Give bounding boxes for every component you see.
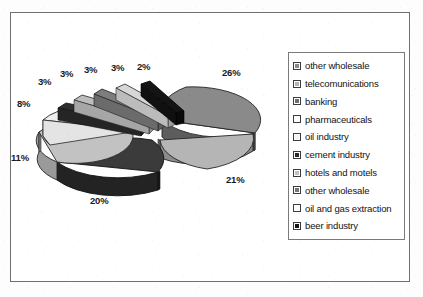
data-label-11: 11% — [11, 152, 29, 163]
legend-item-4[interactable]: oil industry — [293, 128, 401, 146]
legend-item-0[interactable]: other wholesale — [293, 57, 401, 75]
legend-label-4: oil industry — [305, 132, 349, 142]
legend-item-6[interactable]: hotels and motels — [293, 164, 401, 182]
legend-label-7: other wholesale — [305, 186, 369, 196]
chart-screenshot: 26% 21% 20% 11% 8% 3% 3% 3% 3% 2% other … — [0, 0, 423, 297]
legend-label-5: cement industry — [305, 150, 370, 160]
chart-legend: other wholesale telecomunications bankin… — [288, 52, 405, 240]
data-label-3d: 3% — [111, 62, 124, 73]
legend-swatch-icon-0 — [293, 62, 301, 70]
legend-swatch-icon-1 — [293, 80, 301, 88]
legend-swatch-icon-3 — [293, 115, 301, 123]
pie-chart-graphic — [10, 12, 293, 282]
legend-item-1[interactable]: telecomunications — [293, 75, 401, 93]
pie-slice-telecomunications — [158, 134, 254, 169]
data-label-8: 8% — [17, 98, 30, 109]
legend-label-3: pharmaceuticals — [305, 115, 372, 125]
legend-item-9[interactable]: beer industry — [293, 217, 401, 235]
legend-label-2: banking — [305, 97, 337, 107]
data-label-20: 20% — [90, 195, 108, 206]
legend-swatch-icon-5 — [293, 151, 301, 159]
data-label-26: 26% — [222, 67, 240, 78]
legend-swatch-icon-6 — [293, 169, 301, 177]
legend-swatch-icon-2 — [293, 97, 301, 105]
legend-label-1: telecomunications — [305, 79, 379, 89]
legend-swatch-icon-8 — [293, 204, 301, 212]
legend-label-9: beer industry — [305, 221, 358, 231]
data-label-21: 21% — [226, 174, 244, 185]
data-label-2: 2% — [137, 61, 150, 72]
pie-plot-area: 26% 21% 20% 11% 8% 3% 3% 3% 3% 2% — [10, 12, 293, 282]
legend-item-8[interactable]: oil and gas extraction — [293, 199, 401, 217]
legend-label-0: other wholesale — [305, 61, 369, 71]
legend-swatch-icon-7 — [293, 186, 301, 194]
legend-item-2[interactable]: banking — [293, 93, 401, 111]
legend-swatch-icon-9 — [293, 222, 301, 230]
legend-item-3[interactable]: pharmaceuticals — [293, 110, 401, 128]
data-label-3b: 3% — [60, 68, 73, 79]
legend-item-7[interactable]: other wholesale — [293, 182, 401, 200]
data-label-3a: 3% — [38, 76, 51, 87]
legend-label-8: oil and gas extraction — [305, 204, 391, 214]
legend-swatch-icon-4 — [293, 133, 301, 141]
legend-label-6: hotels and motels — [305, 168, 377, 178]
data-label-3c: 3% — [84, 64, 97, 75]
legend-item-5[interactable]: cement industry — [293, 146, 401, 164]
